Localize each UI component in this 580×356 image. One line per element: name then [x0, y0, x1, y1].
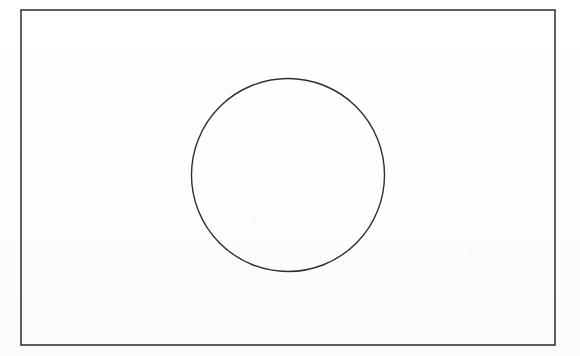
inscribed-circle [192, 79, 385, 272]
line-drawing-figure [0, 0, 580, 356]
figure-canvas [0, 0, 580, 356]
frame-rectangle [21, 10, 555, 345]
